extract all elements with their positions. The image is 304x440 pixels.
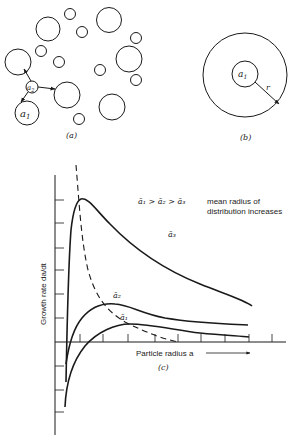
label-a1: a1 [20, 108, 30, 121]
label-a2: a2 [27, 84, 34, 93]
label-curve-a3: ā₃ [168, 230, 176, 239]
particle [95, 65, 106, 76]
particle [97, 8, 122, 33]
particle [36, 17, 60, 41]
label-curve-a1: ā₁ [120, 313, 128, 322]
caption-c: (c) [158, 363, 169, 372]
particle [99, 94, 125, 120]
caption-b: (b) [240, 133, 251, 142]
particle [5, 49, 31, 75]
particle [36, 46, 47, 57]
particle [54, 82, 80, 108]
y-axis-label: Growth rate da/dt [39, 262, 48, 325]
particle [54, 57, 65, 68]
particle [131, 33, 142, 44]
particle [77, 27, 88, 38]
x-axis-label: Particle radius a [136, 349, 194, 358]
particle [131, 75, 142, 86]
legend-relation: ā₁ > ā₂ > ā₃ [138, 197, 186, 206]
particle [116, 46, 142, 72]
label-a1-b: a1 [238, 69, 247, 80]
particle [65, 9, 76, 20]
legend-note-line1: mean radius of [207, 197, 261, 206]
diffusion-arrow [38, 87, 55, 89]
legend-note-line2: distribution increases [207, 207, 282, 216]
particle [74, 114, 85, 125]
x-ticks [80, 334, 272, 342]
y-ticks [55, 200, 64, 412]
label-r: r [266, 83, 271, 92]
label-curve-a2: ā₂ [113, 291, 121, 300]
diffusion-arrow [21, 92, 28, 102]
figure: a2 a1 (a) a1 r (b) [0, 0, 304, 440]
curve-a1 [65, 324, 249, 407]
caption-a: (a) [66, 131, 77, 140]
